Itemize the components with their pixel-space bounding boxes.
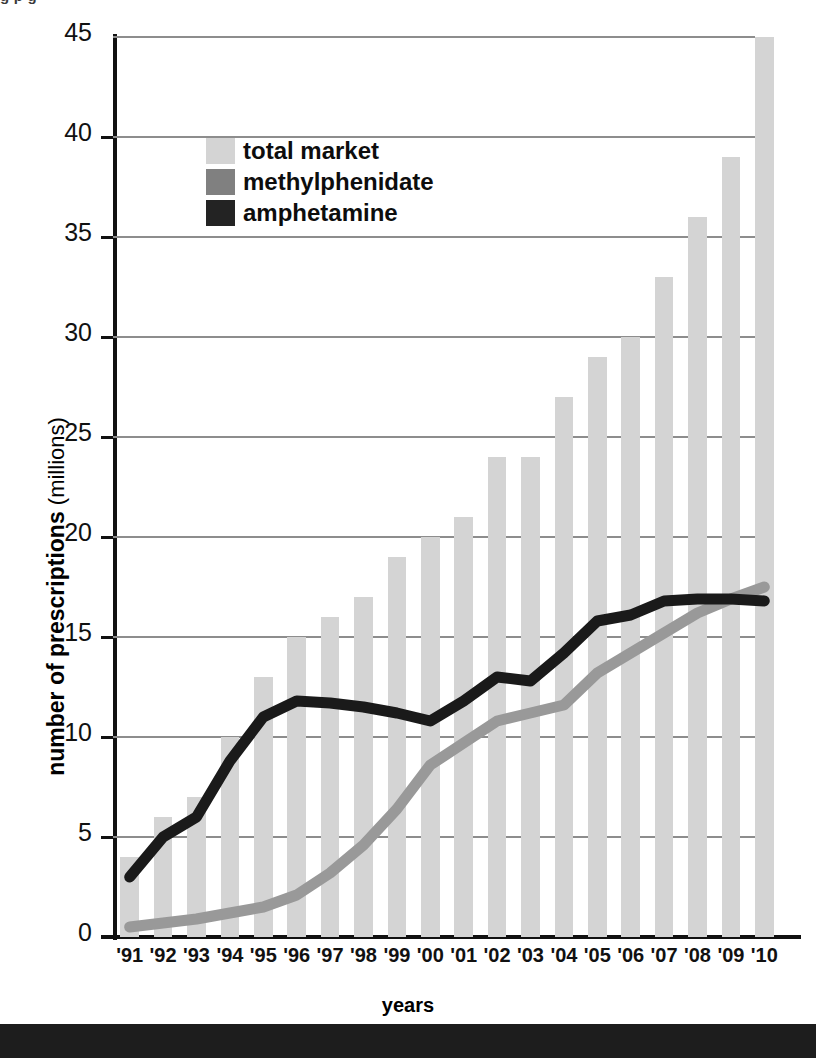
- x-axis-tick-label: '10: [748, 944, 781, 966]
- x-axis-tick-label: '08: [681, 944, 714, 966]
- x-axis-tick-label: '99: [380, 944, 413, 966]
- x-axis-tick-label: '07: [647, 944, 680, 966]
- x-axis-tick-label: '93: [180, 944, 213, 966]
- x-axis-tick-label: '03: [514, 944, 547, 966]
- legend-swatch-total-market: [206, 138, 235, 164]
- x-axis-tick-label: '02: [480, 944, 513, 966]
- x-axis-tick-label: '91: [113, 944, 146, 966]
- legend-item: amphetamine: [206, 198, 434, 227]
- legend-item-label: methylphenidate: [243, 170, 434, 194]
- page-bottom-band: [0, 1024, 816, 1058]
- y-axis-tick-label: 35: [34, 220, 92, 245]
- line-series-amphetamine: [130, 599, 765, 877]
- y-axis-tick-label: 30: [34, 320, 92, 345]
- x-axis-title: years: [0, 994, 816, 1017]
- chart-figure: number of prescriptions (millions) 05101…: [0, 0, 816, 1058]
- legend-item-label: amphetamine: [243, 201, 398, 225]
- legend-item: total market: [206, 136, 434, 165]
- y-axis-tick-label: 20: [34, 520, 92, 545]
- x-axis-tick-label: '95: [247, 944, 280, 966]
- x-axis-tick-label: '96: [280, 944, 313, 966]
- chart-legend: total marketmethylphenidateamphetamine: [206, 136, 434, 227]
- x-axis-tick-label: '00: [414, 944, 447, 966]
- x-axis-tick-label: '09: [714, 944, 747, 966]
- legend-swatch-amphetamine: [206, 200, 235, 226]
- x-axis-tick-label: '97: [313, 944, 346, 966]
- x-axis-tick-label: '01: [447, 944, 480, 966]
- x-axis-tick-label: '98: [347, 944, 380, 966]
- y-axis-tick-label: 40: [34, 120, 92, 145]
- legend-swatch-methylphenidate: [206, 169, 235, 195]
- x-axis-tick-label: '05: [581, 944, 614, 966]
- legend-item-label: total market: [243, 139, 379, 163]
- y-axis-tick-label: 0: [34, 920, 92, 945]
- x-axis-tick-label: '94: [213, 944, 246, 966]
- y-axis-tick-label: 15: [34, 620, 92, 645]
- legend-item: methylphenidate: [206, 167, 434, 196]
- y-axis-tick-label: 25: [34, 420, 92, 445]
- x-axis-tick-label: '04: [547, 944, 580, 966]
- x-axis-tick-labels: '91'92'93'94'95'96'97'98'99'00'01'02'03'…: [113, 944, 781, 978]
- y-axis-tick-label: 5: [34, 820, 92, 845]
- x-axis-tick-label: '92: [146, 944, 179, 966]
- line-series-methylphenidate: [130, 587, 765, 927]
- y-axis-tick-label: 45: [34, 20, 92, 45]
- y-axis-tick-labels: 051015202530354045: [28, 0, 92, 1058]
- x-axis-tick-label: '06: [614, 944, 647, 966]
- y-axis-tick-label: 10: [34, 720, 92, 745]
